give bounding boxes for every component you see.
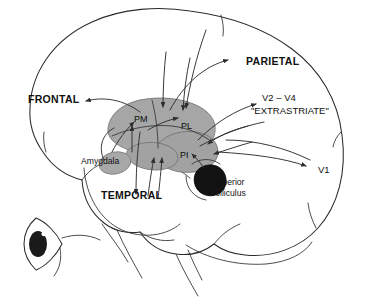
label-pulvinar-lateral: PL xyxy=(181,121,192,131)
central-sulcus xyxy=(221,15,223,36)
label-amygdala: Amygdala xyxy=(81,157,119,167)
brainstem-outline-2 xyxy=(188,250,202,280)
midbrain-line xyxy=(214,224,240,244)
label-pulvinar-inferior: PI xyxy=(180,150,189,160)
label-parietal: PARIETAL xyxy=(246,56,299,68)
brainstem-outline xyxy=(176,254,198,296)
label-superior-colliculus-line2: Colliculus xyxy=(209,189,246,199)
parieto-occipital-sulcus xyxy=(333,132,341,147)
arrow-cortex-to-pm xyxy=(186,30,206,108)
eye-group xyxy=(24,218,100,276)
arrow-pi-to-v1 xyxy=(218,152,306,166)
orbital-sulcus xyxy=(44,132,46,152)
label-frontal: FRONTAL xyxy=(28,94,79,106)
inferior-temporal-sulcus xyxy=(117,230,142,278)
eye-highlight xyxy=(41,232,46,236)
cerebellum-outline xyxy=(186,242,312,264)
eye-to-brain-line xyxy=(62,235,100,240)
label-extrastriate-name: "EXTRASTRIATE" xyxy=(251,106,329,117)
label-superior-colliculus-line1: Superior xyxy=(212,178,244,188)
label-extrastriate-range: V2 – V4 xyxy=(262,93,296,104)
label-temporal: TEMPORAL xyxy=(101,190,162,202)
label-pulvinar-medial: PM xyxy=(134,114,148,124)
brain-diagram: FRONTAL PARIETAL TEMPORAL Amygdala PM PL… xyxy=(0,0,378,304)
brain-illustration xyxy=(0,0,378,304)
label-v1: V1 xyxy=(318,165,330,176)
preoccipital-notch xyxy=(308,203,316,228)
